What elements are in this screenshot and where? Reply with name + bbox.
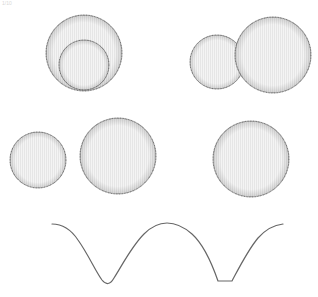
- panel-occultation: [213, 121, 289, 197]
- star-limb-shading: [80, 118, 156, 194]
- binary-star-diagram: [0, 0, 318, 297]
- light-curve: [52, 223, 283, 284]
- star-limb-shading: [59, 40, 109, 90]
- star-limb-shading: [213, 121, 289, 197]
- panel-eclipse-total: [46, 15, 122, 91]
- star-limb-shading: [10, 132, 66, 188]
- star-limb-shading: [235, 17, 311, 93]
- panel-partial-overlap: [190, 17, 311, 93]
- panel-contact-binary: [10, 118, 156, 194]
